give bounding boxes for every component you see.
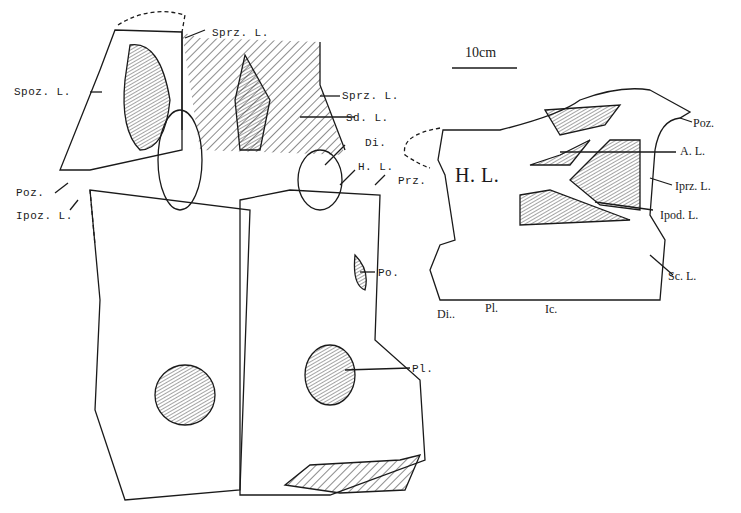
label-al: A. L.: [680, 145, 705, 157]
label-sprz-top: Sprz. L.: [212, 28, 269, 39]
label-poz-right: Poz.: [693, 117, 714, 129]
label-pl-right: Pl.: [485, 302, 498, 314]
label-prz: Prz.: [398, 176, 426, 187]
label-sprz-mid: Sprz. L.: [342, 91, 399, 102]
label-hl-big: H. L.: [455, 165, 499, 185]
label-ic: Ic.: [545, 303, 557, 315]
scale-bar-label: 10cm: [465, 45, 496, 61]
right-vertebra-view: [404, 68, 692, 300]
label-pl-left: Pl.: [412, 364, 433, 375]
label-sd: Sd. L.: [346, 113, 389, 124]
label-hl-left: H. L.: [358, 162, 394, 173]
label-iprz: Iprz. L.: [675, 180, 711, 192]
label-ipod: Ipod. L.: [660, 209, 698, 221]
vertebrae-illustration: [0, 0, 741, 513]
label-di-left: Di.: [365, 138, 386, 149]
label-ipoz: Ipoz. L.: [16, 211, 73, 222]
label-sc: Sc. L.: [668, 270, 696, 282]
label-di-right: Di..: [437, 308, 455, 320]
left-vertebra-view: [55, 12, 425, 500]
label-poz-left: Poz.: [16, 188, 44, 199]
label-spoz: Spoz. L.: [14, 87, 71, 98]
label-po: Po.: [378, 268, 399, 279]
